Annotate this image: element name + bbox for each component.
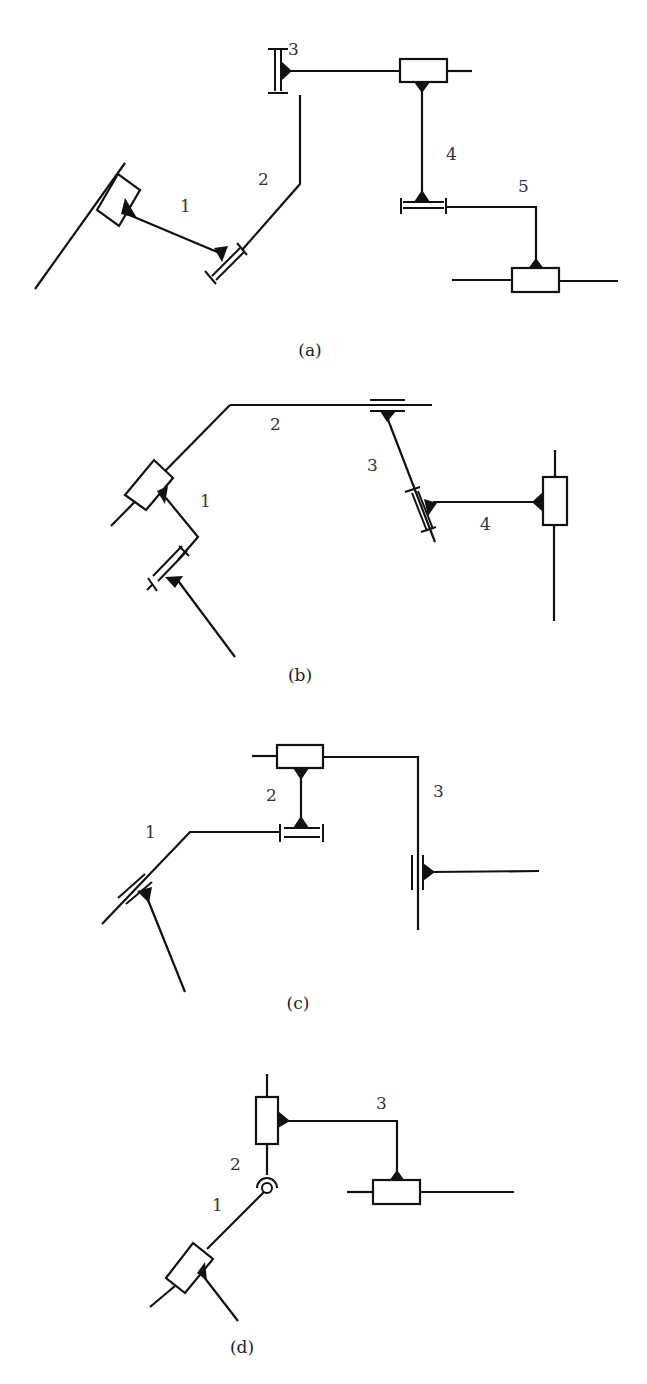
panel-d-revolute-joint — [257, 1178, 277, 1193]
panel-c-caption: (c) — [287, 993, 310, 1013]
panel-b-incline-rail — [111, 405, 230, 526]
panel-a-label-5: 5 — [518, 176, 529, 196]
panel-d-rail-1 — [150, 1286, 175, 1307]
panel-d-weld-1 — [278, 1111, 290, 1128]
panel-a-slider-2 — [400, 59, 447, 82]
panel-b-sleeve-joint-1 — [147, 546, 189, 591]
panel-a-weld-5 — [414, 190, 430, 202]
panel-d-label-3: 3 — [376, 1093, 387, 1113]
panel-a-sleeve-joint-2 — [238, 0, 288, 93]
panel-a-weld-2 — [214, 246, 228, 262]
panel-a-link-1 — [127, 214, 222, 254]
panel-b-caption: (b) — [288, 665, 312, 685]
panel-a-link-2 — [242, 95, 300, 250]
panel-b-label-2: 2 — [270, 414, 281, 434]
panel-c-weld-3 — [137, 887, 152, 903]
panel-a: 1 2 3 4 5 (a) — [35, 0, 618, 360]
panel-d-link-3 — [286, 1121, 397, 1178]
panel-c-base-rail — [146, 895, 185, 992]
panel-a-label-1: 1 — [180, 196, 191, 216]
panel-a-link-5 — [446, 207, 536, 264]
panel-a-label-2: 2 — [258, 169, 269, 189]
panel-a-label-4: 4 — [446, 144, 457, 164]
panel-a-incline-rail — [35, 163, 125, 289]
panel-d-slider-3 — [373, 1180, 420, 1204]
panel-d-base-rail — [204, 1277, 238, 1321]
panel-a-label-3: 3 — [288, 39, 299, 59]
panel-b-slider-2 — [543, 477, 567, 525]
panel-d: 3 2 1 (d) — [150, 1074, 514, 1357]
panel-c-label-3: 3 — [433, 781, 444, 801]
panel-c-link-3 — [323, 757, 418, 930]
panel-c-output-link — [430, 871, 539, 872]
clipped-figure-caption — [0, 1378, 647, 1384]
panel-c-weld-2 — [293, 816, 309, 828]
panel-b-base-rail — [176, 578, 235, 657]
panel-d-label-1: 1 — [212, 1195, 223, 1215]
panel-c-label-2: 2 — [266, 785, 277, 805]
panel-a-caption: (a) — [298, 340, 321, 360]
panel-a-slider-1 — [97, 174, 140, 226]
panel-d-caption: (d) — [230, 1337, 254, 1357]
panel-b-label-3: 3 — [367, 455, 378, 475]
panel-d-slider-1 — [166, 1243, 213, 1293]
panel-b-link-1 — [166, 498, 198, 560]
panel-c: 2 3 1 (c) — [102, 745, 539, 1013]
panel-a-slider-3 — [512, 268, 559, 292]
panel-b-label-1: 1 — [200, 491, 211, 511]
panel-c-label-1: 1 — [145, 822, 156, 842]
panel-c-slider-1 — [277, 745, 323, 768]
kinematic-diagram-figure: 1 2 3 4 5 (a) — [0, 0, 647, 1384]
panel-b: 2 3 1 4 (b) — [111, 400, 567, 685]
panel-b-link-3 — [387, 417, 435, 542]
panel-b-weld-5 — [532, 492, 543, 512]
panel-b-slider-1 — [125, 460, 173, 510]
panel-b-label-4: 4 — [480, 514, 491, 534]
panel-c-link-1 — [102, 832, 280, 924]
panel-d-label-2: 2 — [230, 1154, 241, 1174]
panel-d-slider-2 — [256, 1097, 278, 1144]
